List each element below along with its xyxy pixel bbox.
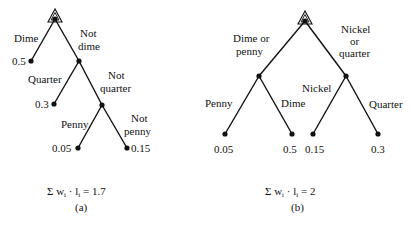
edge-label-nickel: Nickel <box>302 82 331 94</box>
edge-label-nickel-or-quarter-2: or <box>350 35 360 47</box>
tree-b: Dime or penny Nickel or quarter Penny Di… <box>205 11 403 214</box>
leaf-node <box>310 131 315 136</box>
leaf-node <box>124 145 129 150</box>
leaf-node <box>289 131 294 136</box>
root-node <box>52 16 57 21</box>
internal-node <box>343 73 348 78</box>
leaf-node <box>222 131 227 136</box>
edge-label-nickel-or-quarter-3: quarter <box>339 47 370 59</box>
edge-dime-or-penny <box>259 21 305 76</box>
formula-a: Σ wi · li = 1.7 <box>47 185 106 199</box>
edge-label-nickel-or-quarter-1: Nickel <box>341 23 370 35</box>
leaf-node <box>75 145 80 150</box>
edge-label-penny: Penny <box>205 97 233 109</box>
edge-label-not-quarter-1: Not <box>108 69 125 81</box>
edge-not-dime <box>55 19 79 61</box>
leaf-value-nickel: 0.15 <box>131 142 151 154</box>
leaf-node <box>51 101 56 106</box>
internal-node <box>99 102 104 107</box>
leaf-value-penny: 0.05 <box>214 143 234 155</box>
leaf-value-quarter: 0.3 <box>35 98 49 110</box>
edge-label-quarter: Quarter <box>28 73 62 85</box>
leaf-value-nickel: 0.15 <box>305 143 325 155</box>
decision-trees-figure: Dime Not dime Quarter Not quarter Penny … <box>0 0 413 227</box>
leaf-node <box>28 58 33 63</box>
edge-label-not-dime-1: Not <box>80 27 97 39</box>
formula-b: Σ wi · li = 2 <box>265 185 315 199</box>
edge-label-dime-or-penny-1: Dime or <box>233 32 270 44</box>
edge-label-not-penny-1: Not <box>131 112 148 124</box>
edge-label-dime-or-penny-2: penny <box>236 45 263 57</box>
leaf-value-dime: 0.5 <box>12 55 26 67</box>
leaf-value-quarter: 0.3 <box>371 143 385 155</box>
leaf-value-dime: 0.5 <box>283 143 297 155</box>
tree-a: Dime Not dime Quarter Not quarter Penny … <box>12 9 151 214</box>
leaf-node <box>375 131 380 136</box>
internal-node <box>76 58 81 63</box>
caption-b: (b) <box>291 201 304 214</box>
caption-a: (a) <box>75 201 88 214</box>
leaf-value-penny: 0.05 <box>52 142 72 154</box>
internal-node <box>256 73 261 78</box>
edge-label-not-dime-2: dime <box>78 40 100 52</box>
edge-label-quarter: Quarter <box>369 98 403 110</box>
edge-label-not-quarter-2: quarter <box>100 82 131 94</box>
root-node <box>302 18 307 23</box>
edge-label-not-penny-2: penny <box>124 125 151 137</box>
edge-label-dime: Dime <box>14 32 39 44</box>
edge-not-quarter <box>79 61 102 105</box>
edge-label-penny: Penny <box>61 118 89 130</box>
edge-label-dime: Dime <box>281 97 306 109</box>
